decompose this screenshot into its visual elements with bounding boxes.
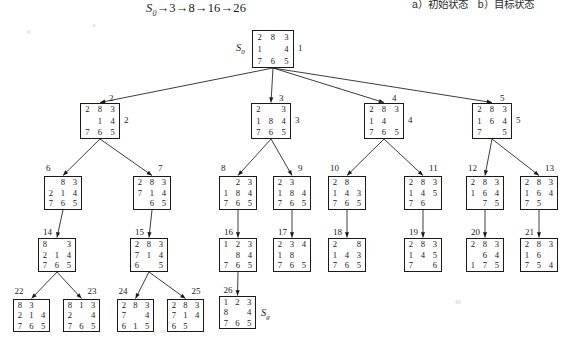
puzzle-tile-cell: 8 — [286, 188, 298, 199]
puzzle-state-node: 12384765 — [219, 296, 256, 329]
puzzle-tile-cell: 4 — [341, 188, 353, 199]
puzzle-grid: 28316475 — [473, 104, 511, 138]
start-state-label: S0 — [236, 42, 245, 56]
puzzle-grid: 81324765 — [64, 300, 99, 331]
puzzle-tile-cell: 6 — [146, 198, 158, 209]
puzzle-state-node: 83214765 — [44, 176, 82, 210]
puzzle-state-node: 28371465 — [133, 176, 171, 210]
puzzle-blank-cell — [417, 260, 429, 271]
puzzle-tile-cell: 1 — [51, 250, 63, 261]
puzzle-tile-cell: 1 — [76, 300, 88, 310]
puzzle-tile-cell: 8 — [479, 177, 491, 188]
puzzle-tile-cell: 2 — [252, 104, 265, 115]
puzzle-tile-cell: 1 — [473, 115, 486, 126]
puzzle-tile-cell: 7 — [253, 55, 266, 67]
puzzle-grid: 28314765 — [253, 31, 293, 67]
puzzle-state-node: 28143765 — [328, 238, 366, 272]
puzzle-tile-cell: 7 — [39, 260, 51, 271]
puzzle-grid: 12384765 — [220, 297, 255, 328]
puzzle-tile-cell: 2 — [473, 104, 486, 115]
puzzle-state-node: 83214765 — [38, 238, 76, 272]
puzzle-tile-cell: 8 — [220, 307, 232, 317]
puzzle-tile-cell: 6 — [429, 260, 441, 271]
puzzle-tile-cell: 8 — [232, 250, 244, 261]
puzzle-tile-cell: 5 — [353, 260, 365, 271]
edge-order-label: 14 — [43, 227, 52, 237]
puzzle-tile-cell: 2 — [329, 239, 341, 250]
puzzle-tile-cell: 5 — [155, 260, 167, 271]
puzzle-state-node: 23184765 — [251, 103, 291, 139]
edge-arrowhead — [236, 232, 240, 237]
puzzle-tile-cell: 5 — [63, 260, 75, 271]
puzzle-grid: 83214765 — [14, 300, 49, 331]
puzzle-tile-cell: 7 — [274, 260, 286, 271]
edge-order-label: 12 — [468, 163, 477, 173]
puzzle-tile-cell: 1 — [26, 310, 38, 320]
edge-order-label: 18 — [333, 227, 342, 237]
puzzle-blank-cell — [467, 250, 479, 261]
puzzle-tile-cell: 1 — [57, 188, 69, 199]
edge-order-label: 26 — [224, 285, 233, 295]
puzzle-blank-cell — [51, 239, 63, 250]
puzzle-tile-cell: 6 — [26, 321, 38, 331]
puzzle-tile-cell: 1 — [274, 250, 286, 261]
edge-order-label: 11 — [429, 163, 438, 173]
puzzle-tile-cell: 1 — [521, 188, 533, 199]
puzzle-tile-cell: 3 — [545, 239, 557, 250]
edge-order-label: 8 — [221, 163, 226, 173]
node-order-label: 2 — [124, 115, 129, 125]
tree-edge — [492, 139, 539, 176]
puzzle-tile-cell: 3 — [26, 300, 38, 310]
puzzle-tile-cell: 3 — [155, 239, 167, 250]
puzzle-tile-cell: 3 — [429, 239, 441, 250]
puzzle-tile-cell: 1 — [405, 250, 417, 261]
puzzle-tile-cell: 2 — [405, 177, 417, 188]
edge-arrowhead — [421, 232, 425, 237]
puzzle-tile-cell: 3 — [491, 177, 503, 188]
puzzle-tile-cell: 4 — [280, 43, 293, 55]
puzzle-tile-cell: 3 — [353, 188, 365, 199]
tree-edge — [485, 139, 492, 176]
puzzle-tile-cell: 2 — [168, 300, 180, 310]
puzzle-tile-cell: 8 — [94, 104, 107, 115]
puzzle-tile-cell: 8 — [479, 239, 491, 250]
puzzle-tile-cell: 3 — [243, 297, 255, 307]
puzzle-tile-cell: 3 — [158, 177, 170, 188]
puzzle-tile-cell: 5 — [37, 321, 49, 331]
puzzle-tile-cell: 5 — [298, 260, 310, 271]
puzzle-tile-cell: 8 — [378, 104, 391, 115]
puzzle-tile-cell: 4 — [63, 250, 75, 261]
puzzle-blank-cell — [545, 250, 557, 261]
puzzle-tile-cell: 1 — [521, 250, 533, 261]
tree-edge — [238, 139, 271, 176]
puzzle-grid: 12384765 — [220, 239, 256, 271]
puzzle-tile-cell: 2 — [39, 250, 51, 261]
puzzle-grid: 28314765 — [365, 104, 403, 138]
edge-order-label: 4 — [392, 93, 397, 103]
puzzle-tile-cell: 8 — [533, 177, 545, 188]
puzzle-tile-cell: 6 — [51, 260, 63, 271]
puzzle-tile-cell: 2 — [253, 31, 266, 43]
edge-order-label: 20 — [471, 227, 480, 237]
puzzle-tile-cell: 5 — [277, 127, 290, 138]
puzzle-tile-cell: 3 — [491, 239, 503, 250]
edge-order-label: 21 — [525, 227, 534, 237]
puzzle-grid: 28364175 — [467, 239, 503, 271]
node-order-label: 5 — [516, 115, 521, 125]
puzzle-tile-cell: 4 — [243, 307, 255, 317]
puzzle-grid: 28371465 — [131, 239, 167, 271]
puzzle-tile-cell: 8 — [417, 239, 429, 250]
edge-arrowhead — [147, 232, 151, 237]
puzzle-tile-cell: 7 — [405, 198, 417, 209]
puzzle-tile-cell: 3 — [244, 177, 256, 188]
puzzle-tile-cell: 5 — [390, 127, 403, 138]
puzzle-tile-cell: 3 — [280, 31, 293, 43]
puzzle-tile-cell: 1 — [467, 260, 479, 271]
puzzle-tile-cell: 5 — [69, 198, 81, 209]
puzzle-tile-cell: 1 — [252, 115, 265, 126]
puzzle-tile-cell: 6 — [286, 198, 298, 209]
puzzle-tile-cell: 7 — [81, 127, 94, 138]
puzzle-tile-cell: 3 — [390, 104, 403, 115]
edge-arrowhead — [290, 232, 294, 237]
puzzle-tile-cell: 6 — [266, 55, 279, 67]
